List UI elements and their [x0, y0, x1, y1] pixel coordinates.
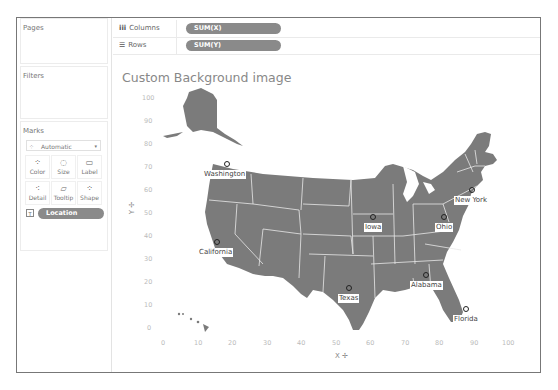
rows-shelf-label: ☰Rows — [119, 41, 147, 49]
map-point-alabama[interactable] — [423, 272, 429, 278]
tooltip-button[interactable]: ▱ Tooltip — [51, 181, 76, 205]
label-alabama: Alabama — [410, 281, 443, 290]
label-new-york: New York — [454, 196, 488, 205]
label-encoding-icon: T — [26, 209, 34, 217]
shape-label: Shape — [80, 194, 99, 201]
shelf-divider — [176, 37, 177, 54]
rows-pill-sum-y[interactable]: SUM(Y) — [186, 40, 281, 51]
color-label: Color — [30, 168, 46, 175]
size-icon: ◌ — [52, 157, 75, 168]
detail-button[interactable]: ⁖ Detail — [25, 181, 50, 205]
filters-title: Filters — [23, 72, 44, 80]
map-point-florida[interactable] — [463, 306, 469, 312]
map-point-texas[interactable] — [346, 285, 352, 291]
map-point-new-york[interactable] — [469, 187, 475, 193]
color-button[interactable]: ⁘ Color — [25, 155, 50, 179]
us-map-background-image — [113, 54, 540, 372]
detail-label: Detail — [29, 194, 47, 201]
automatic-mark-icon: ⁘ — [29, 141, 34, 152]
tooltip-icon: ▱ — [52, 183, 75, 194]
tableau-worksheet: Pages Filters Marks ⁘ Automatic ▾ ⁘ Colo… — [16, 17, 541, 373]
shape-button[interactable]: ⁘ Shape — [77, 181, 102, 205]
map-point-washington[interactable] — [224, 161, 230, 167]
map-point-iowa[interactable] — [370, 214, 376, 220]
location-pill[interactable]: Location — [38, 208, 104, 219]
rows-icon: ☰ — [119, 41, 125, 49]
label-california: California — [198, 248, 233, 257]
label-iowa: Iowa — [364, 223, 382, 232]
map-point-ohio[interactable] — [441, 214, 447, 220]
marks-card: Marks ⁘ Automatic ▾ ⁘ Color ◌ Size ▭ Lab… — [20, 121, 108, 251]
pages-title: Pages — [23, 24, 44, 32]
label-button[interactable]: ▭ Label — [77, 155, 102, 179]
label-florida: Florida — [453, 315, 479, 324]
detail-icon: ⁖ — [26, 183, 49, 194]
label-texas: Texas — [338, 294, 359, 303]
columns-text: Columns — [129, 24, 159, 32]
location-field-row: T Location — [26, 208, 106, 220]
shape-icon: ⁘ — [78, 183, 101, 194]
columns-pill-sum-x[interactable]: SUM(X) — [186, 23, 281, 34]
chevron-down-icon: ▾ — [94, 141, 97, 152]
columns-shelf: iiiColumns SUM(X) — [113, 20, 540, 38]
shelf-divider — [176, 20, 177, 37]
filters-card[interactable]: Filters — [20, 66, 108, 119]
mark-type-dropdown[interactable]: ⁘ Automatic ▾ — [26, 140, 101, 151]
columns-shelf-label: iiiColumns — [119, 24, 160, 32]
pages-card[interactable]: Pages — [20, 18, 108, 64]
viz-area: Custom Background image 100 90 80 70 60 … — [113, 54, 540, 372]
label-washington: Washington — [203, 170, 246, 179]
marks-title: Marks — [23, 127, 44, 135]
map-point-california[interactable] — [214, 239, 220, 245]
tooltip-label: Tooltip — [54, 194, 73, 201]
left-panel: Pages Filters Marks ⁘ Automatic ▾ ⁘ Colo… — [17, 18, 112, 372]
size-button[interactable]: ◌ Size — [51, 155, 76, 179]
rows-shelf: ☰Rows SUM(Y) — [113, 37, 540, 55]
label-icon: ▭ — [78, 157, 101, 168]
label-label: Label — [81, 168, 97, 175]
size-label: Size — [57, 168, 69, 175]
rows-text: Rows — [128, 41, 146, 49]
color-dots-icon: ⁘ — [26, 157, 49, 168]
mark-type-value: Automatic — [41, 143, 72, 150]
columns-icon: iii — [119, 24, 126, 32]
label-ohio: Ohio — [435, 223, 453, 232]
